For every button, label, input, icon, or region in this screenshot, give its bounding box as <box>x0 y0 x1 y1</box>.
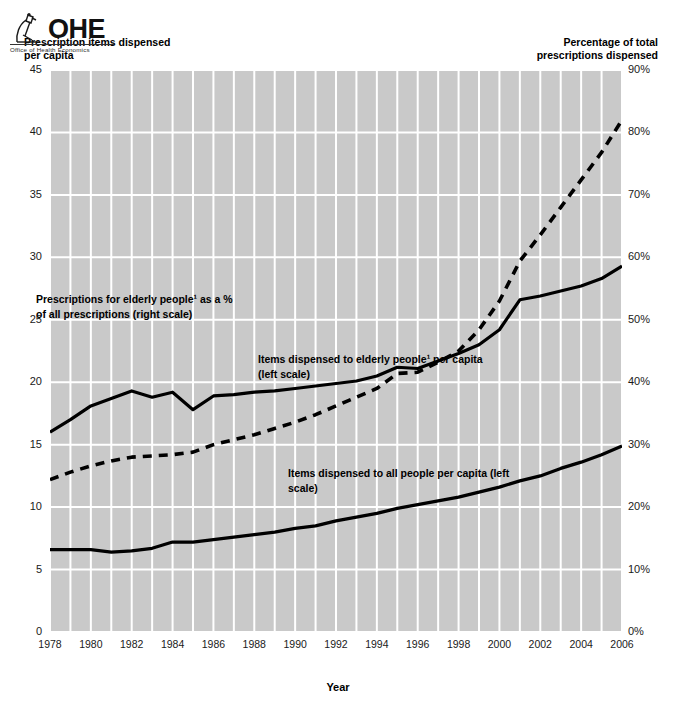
x-axis-title: Year <box>0 681 676 693</box>
x-tick: 1982 <box>109 638 155 650</box>
x-tick: 1990 <box>272 638 318 650</box>
y-tick-right: 70% <box>628 188 674 200</box>
x-tick: 1996 <box>395 638 441 650</box>
microscope-icon <box>10 12 50 46</box>
x-tick: 1988 <box>231 638 277 650</box>
y-tick-right: 80% <box>628 125 674 137</box>
y-tick-right: 0% <box>628 625 674 637</box>
ohe-tagline: Office of Health Economics <box>10 46 90 53</box>
y-tick-right: 30% <box>628 438 674 450</box>
chart-plot-area <box>50 70 622 632</box>
y-tick-left: 0 <box>0 625 42 637</box>
right-axis-title: Percentage of total prescriptions dispen… <box>537 36 658 62</box>
annotation-elderly-items: Items dispensed to elderly people¹ per c… <box>258 352 508 381</box>
y-tick-right: 90% <box>628 63 674 75</box>
y-tick-left: 45 <box>0 63 42 75</box>
y-tick-left: 30 <box>0 250 42 262</box>
y-tick-left: 5 <box>0 563 42 575</box>
x-tick: 1978 <box>27 638 73 650</box>
y-tick-left: 25 <box>0 313 42 325</box>
y-tick-right: 10% <box>628 563 674 575</box>
y-tick-right: 20% <box>628 500 674 512</box>
x-tick: 1984 <box>150 638 196 650</box>
annotation-elderly-percentage: Prescriptions for elderly people¹ as a %… <box>36 292 286 321</box>
y-tick-left: 10 <box>0 500 42 512</box>
x-tick: 1994 <box>354 638 400 650</box>
x-tick: 1992 <box>313 638 359 650</box>
y-tick-right: 60% <box>628 250 674 262</box>
y-tick-left: 20 <box>0 375 42 387</box>
ohe-logo: OHE Office of Health Economics <box>8 12 116 58</box>
y-tick-left: 35 <box>0 188 42 200</box>
annotation-all-items: Items dispensed to all people per capita… <box>288 466 544 495</box>
x-tick: 2000 <box>476 638 522 650</box>
chart-canvas <box>50 70 622 632</box>
ohe-wordmark: OHE <box>48 14 105 45</box>
x-tick: 2006 <box>599 638 645 650</box>
x-tick: 1998 <box>436 638 482 650</box>
y-tick-right: 50% <box>628 313 674 325</box>
vertical-gridlines <box>50 70 622 632</box>
y-tick-left: 15 <box>0 438 42 450</box>
x-tick: 2002 <box>517 638 563 650</box>
x-tick: 1986 <box>190 638 236 650</box>
x-tick: 1980 <box>68 638 114 650</box>
y-tick-left: 40 <box>0 125 42 137</box>
ohe-divider <box>10 44 114 45</box>
x-tick: 2004 <box>558 638 604 650</box>
y-tick-right: 40% <box>628 375 674 387</box>
